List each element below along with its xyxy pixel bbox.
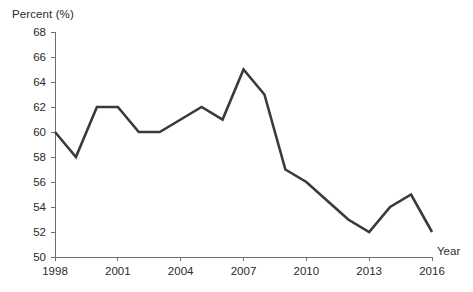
y-tick-label: 60: [33, 126, 46, 138]
y-tick-label: 58: [33, 151, 46, 163]
data-series-line: [55, 70, 432, 233]
y-tick-label: 50: [33, 251, 46, 263]
line-chart: Percent (%) Year 50525456586062646668 19…: [0, 0, 473, 292]
x-tick-label: 2016: [419, 265, 445, 277]
y-tick-label: 64: [33, 76, 46, 88]
x-tick-label: 2001: [105, 265, 131, 277]
y-tick-label: 54: [33, 201, 46, 213]
plot-area: 50525456586062646668 1998200120042007201…: [0, 0, 473, 292]
x-tick-label: 2013: [356, 265, 382, 277]
x-axis-ticks: 1998200120042007201020132016: [42, 257, 445, 277]
y-tick-label: 52: [33, 226, 46, 238]
x-tick-label: 1998: [42, 265, 68, 277]
y-tick-label: 56: [33, 176, 46, 188]
x-tick-label: 2007: [231, 265, 257, 277]
x-tick-label: 2004: [168, 265, 194, 277]
x-tick-label: 2010: [294, 265, 320, 277]
y-axis-ticks: 50525456586062646668: [33, 26, 55, 263]
y-tick-label: 62: [33, 101, 46, 113]
y-tick-label: 66: [33, 51, 46, 63]
y-tick-label: 68: [33, 26, 46, 38]
